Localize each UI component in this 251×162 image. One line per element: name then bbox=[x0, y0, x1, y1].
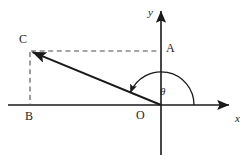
x-axis-label: x bbox=[235, 113, 240, 124]
origin-label-o: O bbox=[136, 109, 145, 121]
figure-canvas bbox=[0, 0, 251, 162]
point-label-b: B bbox=[25, 110, 33, 122]
geometry-figure: C A B O θ y x bbox=[0, 0, 251, 162]
point-label-a: A bbox=[166, 42, 175, 54]
y-axis-label: y bbox=[148, 7, 153, 18]
point-label-c: C bbox=[19, 33, 27, 45]
angle-label-theta: θ bbox=[160, 86, 165, 97]
